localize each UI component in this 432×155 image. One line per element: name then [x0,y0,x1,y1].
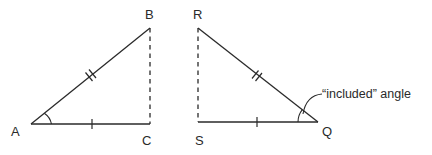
included-angle-label: “included” angle [322,87,411,101]
congruent-triangles-diagram: A B C R S Q “included” angle [0,0,432,155]
vertex-label-s: S [195,133,204,148]
annotation-pointer-arrow [303,94,322,114]
angle-arc-q [298,110,302,122]
triangle-rsq: R S Q “included” angle [193,7,411,148]
vertex-label-a: A [11,124,20,139]
side-rq [198,28,318,122]
vertex-label-q: Q [322,124,332,139]
angle-arc-a [44,113,51,124]
side-ab [31,28,150,124]
vertex-label-b: B [145,7,154,22]
vertex-label-r: R [193,7,202,22]
vertex-label-c: C [142,133,151,148]
triangle-abc: A B C [11,7,154,148]
